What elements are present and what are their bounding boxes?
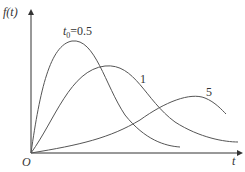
- x-axis-label: t: [232, 154, 235, 169]
- origin-label: O: [22, 155, 31, 170]
- y-axis-label: f(t): [3, 5, 18, 20]
- curve-label-0.5: t0=0.5: [63, 24, 92, 40]
- curve-1: [31, 66, 238, 153]
- curve-label-5: 5: [206, 85, 212, 100]
- curve-label-1: 1: [140, 72, 146, 87]
